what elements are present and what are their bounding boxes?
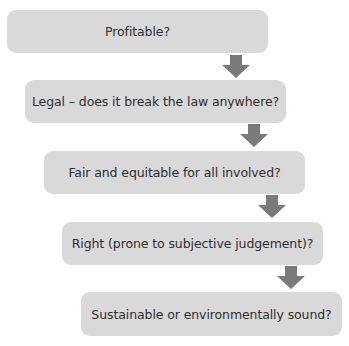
step-label: Right (prone to subjective judgement)?: [72, 236, 314, 251]
step-label: Profitable?: [105, 24, 170, 39]
step-right: Right (prone to subjective judgement)?: [62, 222, 323, 265]
step-legal: Legal – does it break the law anywhere?: [25, 80, 286, 123]
step-label: Fair and equitable for all involved?: [68, 165, 280, 180]
step-fair: Fair and equitable for all involved?: [44, 151, 305, 194]
step-sustainable: Sustainable or environmentally sound?: [81, 292, 342, 336]
down-arrow-icon: [222, 55, 250, 78]
step-profitable: Profitable?: [7, 10, 268, 53]
down-arrow-icon: [277, 266, 305, 289]
step-label: Legal – does it break the law anywhere?: [32, 94, 279, 109]
down-arrow-icon: [258, 195, 286, 218]
step-label: Sustainable or environmentally sound?: [91, 307, 331, 322]
down-arrow-icon: [240, 124, 268, 147]
